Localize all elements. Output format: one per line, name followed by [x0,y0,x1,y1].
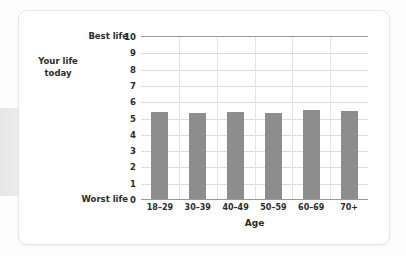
x-axis-tick-label: 18–29 [147,203,173,212]
bar [265,113,282,199]
gridline-vertical [292,37,293,199]
y-axis-title-line1: Your life [18,55,98,67]
y-axis-title: Your life today [18,55,98,79]
x-axis-tick-label: 30–39 [185,203,211,212]
gridline-vertical [217,37,218,199]
gridline-vertical [255,37,256,199]
y-axis-tick-label: 0 [130,195,136,205]
y-axis-title-line2: today [18,67,98,79]
y-axis-tick-label: 1 [130,179,136,189]
bar [341,111,358,199]
x-axis-tick-label: 50–59 [260,203,286,212]
bar [227,112,244,199]
y-axis-tick-label: 9 [130,48,136,58]
plot-area: 012345678910 [141,36,368,199]
gridline-vertical [179,37,180,199]
y-axis-tick-label: 4 [130,130,136,140]
y-axis-tick-label: 10 [124,32,136,42]
worst-life-label: Worst life [56,194,128,204]
x-axis-line [141,199,368,200]
x-axis-tick-label: 40–49 [222,203,248,212]
x-axis-title: Age [141,218,368,228]
x-axis-tick-label: 70+ [340,203,358,212]
y-axis-tick-label: 7 [130,81,136,91]
y-axis-tick-label: 6 [130,97,136,107]
bar [151,112,168,199]
gridline-vertical [330,37,331,199]
best-life-label: Best life [62,31,128,41]
bar [303,110,320,199]
y-axis-tick-label: 3 [130,146,136,156]
x-axis-tick-label: 60–69 [298,203,324,212]
bar [189,113,206,199]
y-axis-tick-label: 8 [130,65,136,75]
y-axis-tick-label: 2 [130,162,136,172]
y-axis-tick-label: 5 [130,114,136,124]
bar-chart: Best life Worst life Your life today 012… [0,0,406,256]
